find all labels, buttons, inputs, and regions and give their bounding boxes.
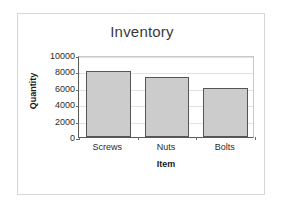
y-axis-tick-labels: 0200040006000800010000 xyxy=(34,56,78,138)
x-tick-mark xyxy=(255,137,256,140)
chart-frame: Inventory Quantity 020004000600080001000… xyxy=(17,13,265,195)
y-tick-label: 4000 xyxy=(55,101,75,110)
x-tick-mark xyxy=(138,137,139,140)
x-tick-label: Nuts xyxy=(157,142,176,152)
x-tick-mark xyxy=(79,137,80,140)
x-axis-tick-labels: ScrewsNutsBolts xyxy=(78,142,254,156)
bar-series xyxy=(79,57,253,137)
x-axis-title: Item xyxy=(78,159,254,169)
plot-area xyxy=(78,56,254,138)
bar[interactable] xyxy=(86,71,131,137)
x-tick-label: Screws xyxy=(93,142,123,152)
x-tick-label: Bolts xyxy=(215,142,235,152)
y-tick-label: 10000 xyxy=(50,52,75,61)
bar[interactable] xyxy=(145,77,190,137)
bar[interactable] xyxy=(203,88,248,137)
y-tick-label: 0 xyxy=(70,134,75,143)
chart-title: Inventory xyxy=(18,23,266,40)
y-tick-label: 8000 xyxy=(55,68,75,77)
x-tick-mark xyxy=(196,137,197,140)
y-tick-label: 2000 xyxy=(55,117,75,126)
y-tick-label: 6000 xyxy=(55,84,75,93)
